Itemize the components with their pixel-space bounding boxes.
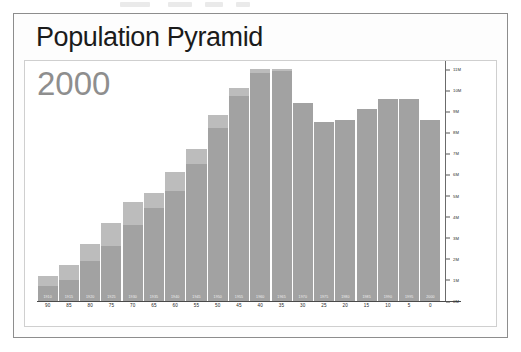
x-axis-tick-label: 0 bbox=[420, 303, 441, 315]
bar-1940[interactable]: 1940 bbox=[165, 69, 185, 301]
bar-segment-upper bbox=[123, 202, 143, 225]
bar-1965[interactable]: 1965 bbox=[272, 69, 292, 301]
x-axis-tick-label: 85 bbox=[58, 303, 79, 315]
bar-segment-lower bbox=[101, 246, 121, 301]
y-axis-tick-label: 0M bbox=[453, 299, 459, 304]
x-axis-tick-label: 35 bbox=[271, 303, 292, 315]
bar-segment-lower bbox=[165, 191, 185, 301]
x-axis-tick-label: 25 bbox=[313, 303, 334, 315]
bar-1945[interactable]: 1945 bbox=[186, 69, 206, 301]
chart-panel: 2000 19101915192019251930193519401945195… bbox=[24, 60, 497, 327]
bar-segment-upper bbox=[208, 115, 228, 128]
y-axis-tick-label: 6M bbox=[453, 172, 459, 177]
bar-series-group: 1910191519201925193019351940194519501955… bbox=[37, 69, 441, 301]
bar-segment-upper bbox=[165, 172, 185, 191]
bar-segment-lower bbox=[399, 99, 419, 301]
bar-1995[interactable]: 1995 bbox=[399, 69, 419, 301]
bar-segment-lower bbox=[378, 99, 398, 301]
bar-segment-lower bbox=[250, 73, 270, 301]
x-axis-tick-label: 15 bbox=[356, 303, 377, 315]
bar-1980[interactable]: 1980 bbox=[335, 69, 355, 301]
x-axis-ticks: 908580757065605550454035302520151050 bbox=[37, 303, 441, 315]
bar-segment-lower bbox=[186, 164, 206, 301]
x-axis-tick-label: 70 bbox=[122, 303, 143, 315]
bar-segment-upper bbox=[229, 88, 249, 96]
y-axis-tick-label: 11M bbox=[453, 67, 461, 72]
chart-plot-area: 1910191519201925193019351940194519501955… bbox=[37, 69, 441, 301]
bar-2000[interactable]: 2000 bbox=[420, 69, 440, 301]
x-axis-tick-label: 30 bbox=[292, 303, 313, 315]
bar-1970[interactable]: 1970 bbox=[293, 69, 313, 301]
bar-segment-lower bbox=[38, 286, 58, 301]
bar-segment-lower bbox=[144, 208, 164, 301]
scan-artifact-strip bbox=[0, 0, 521, 13]
x-axis-line bbox=[37, 301, 461, 302]
x-axis-tick-label: 80 bbox=[80, 303, 101, 315]
bar-1985[interactable]: 1985 bbox=[357, 69, 377, 301]
bar-1960[interactable]: 1960 bbox=[250, 69, 270, 301]
y-axis-tick-label: 2M bbox=[453, 256, 459, 261]
bar-segment-lower bbox=[293, 103, 313, 301]
x-axis-tick-label: 65 bbox=[143, 303, 164, 315]
bar-1990[interactable]: 1990 bbox=[378, 69, 398, 301]
bar-segment-upper bbox=[59, 265, 79, 280]
x-axis-tick-label: 10 bbox=[377, 303, 398, 315]
x-axis-tick-label: 90 bbox=[37, 303, 58, 315]
bar-1910[interactable]: 1910 bbox=[38, 69, 58, 301]
bar-segment-lower bbox=[335, 120, 355, 301]
bar-segment-lower bbox=[80, 261, 100, 301]
y-axis-tick-label: 7M bbox=[453, 151, 459, 156]
bar-segment-upper bbox=[144, 193, 164, 208]
bar-segment-lower bbox=[59, 280, 79, 301]
bar-1925[interactable]: 1925 bbox=[101, 69, 121, 301]
y-axis-ticks: 11M10M9M8M7M6M5M4M3M2M1M0M bbox=[445, 61, 493, 309]
bar-1935[interactable]: 1935 bbox=[144, 69, 164, 301]
y-axis-tick-label: 5M bbox=[453, 193, 459, 198]
x-axis-tick-label: 40 bbox=[250, 303, 271, 315]
bar-segment-lower bbox=[420, 120, 440, 301]
document-frame: Population Pyramid 2000 1910191519201925… bbox=[13, 13, 508, 338]
x-axis-tick-label: 75 bbox=[101, 303, 122, 315]
x-axis-tick-label: 45 bbox=[228, 303, 249, 315]
x-axis-tick-label: 50 bbox=[207, 303, 228, 315]
bar-segment-upper bbox=[101, 223, 121, 246]
bar-segment-upper bbox=[80, 244, 100, 261]
y-axis-tick-label: 4M bbox=[453, 214, 459, 219]
bar-segment-lower bbox=[208, 128, 228, 301]
bar-1930[interactable]: 1930 bbox=[123, 69, 143, 301]
x-axis-tick-label: 5 bbox=[399, 303, 420, 315]
x-axis-tick-label: 55 bbox=[186, 303, 207, 315]
bar-1955[interactable]: 1955 bbox=[229, 69, 249, 301]
x-axis-tick-label: 20 bbox=[335, 303, 356, 315]
x-axis-tick-label: 60 bbox=[165, 303, 186, 315]
bar-segment-lower bbox=[357, 109, 377, 301]
bar-1950[interactable]: 1950 bbox=[208, 69, 228, 301]
bar-segment-lower bbox=[314, 122, 334, 301]
y-axis-tick-label: 10M bbox=[453, 88, 461, 93]
bar-1920[interactable]: 1920 bbox=[80, 69, 100, 301]
y-axis-tick-label: 9M bbox=[453, 109, 459, 114]
y-axis-tick-label: 8M bbox=[453, 130, 459, 135]
bar-segment-upper bbox=[38, 276, 58, 287]
bar-segment-upper bbox=[186, 149, 206, 164]
bar-segment-lower bbox=[272, 71, 292, 301]
bar-1975[interactable]: 1975 bbox=[314, 69, 334, 301]
page-title: Population Pyramid bbox=[36, 22, 263, 53]
bar-1915[interactable]: 1915 bbox=[59, 69, 79, 301]
bar-segment-lower bbox=[123, 225, 143, 301]
y-axis-tick-label: 1M bbox=[453, 277, 459, 282]
bar-segment-lower bbox=[229, 96, 249, 301]
y-axis-tick-label: 3M bbox=[453, 235, 459, 240]
